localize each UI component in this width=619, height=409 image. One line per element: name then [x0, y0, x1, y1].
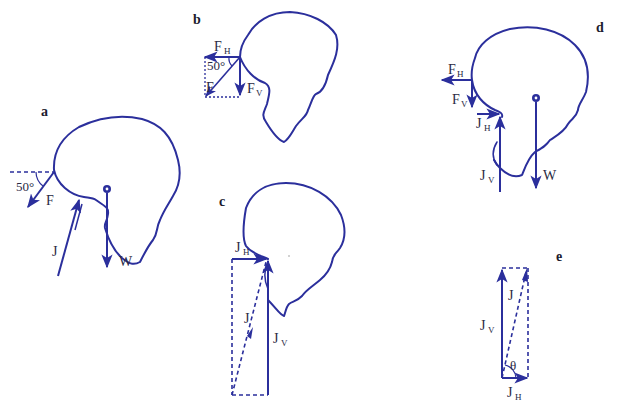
force-FV-subscript-b: V: [256, 88, 263, 98]
panel-a: a 50° F J W: [10, 104, 180, 276]
joint-force-J-line-c: [232, 262, 266, 395]
force-FH-subscript-b: H: [224, 46, 231, 56]
angle-arc-b: [229, 57, 232, 66]
angle-label-a: 50°: [16, 179, 34, 194]
head-outline-b: [240, 12, 337, 142]
panel-c-label: c: [219, 194, 225, 209]
panel-a-label: a: [41, 104, 48, 119]
joint-force-JH-subscript-c: H: [243, 247, 250, 257]
force-FH-label-d: F: [448, 62, 456, 77]
head-outline-d: [472, 27, 588, 176]
joint-force-JH-label-e: J: [507, 385, 513, 400]
head-force-diagram: a 50° F J W b F H F V F: [0, 0, 619, 409]
joint-force-JV-subscript-c: V: [281, 338, 288, 348]
head-outline-a: [54, 117, 180, 264]
joint-force-J-arrow-a: [58, 200, 79, 276]
panel-d: d F H F V J H J V W: [442, 20, 604, 192]
joint-force-J-label-a: J: [52, 244, 58, 259]
force-FV-label-b: F: [247, 81, 255, 96]
panel-c: c J H J V J: [219, 183, 344, 395]
panel-e-label: e: [556, 249, 562, 264]
joint-force-J-label-e: J: [508, 288, 514, 303]
force-F-label-a: F: [46, 193, 54, 208]
joint-force-JH-label-d: J: [476, 116, 482, 131]
angle-label-e: θ: [510, 358, 516, 373]
head-outline-c: [243, 183, 344, 316]
joint-force-JV-label-c: J: [273, 331, 279, 346]
joint-force-J-label-c: J: [244, 311, 250, 326]
joint-force-JV-subscript-e: V: [488, 325, 495, 335]
joint-force-JV-label-e: J: [480, 318, 486, 333]
force-F-label-b: F: [206, 80, 214, 95]
force-FH-subscript-d: H: [457, 69, 464, 79]
joint-force-JV-label-d: J: [480, 168, 486, 183]
joint-force-JH-subscript-d: H: [484, 123, 491, 133]
joint-force-JH-subscript-e: H: [515, 392, 522, 402]
panel-d-label: d: [596, 20, 604, 35]
panel-e: e J V J H J θ: [480, 249, 562, 402]
joint-force-J-arrowhead-e: [522, 268, 528, 282]
joint-force-JV-subscript-d: V: [488, 175, 495, 185]
weight-W-label-a: W: [119, 254, 133, 269]
force-FV-label-d: F: [452, 92, 460, 107]
center-dot-c: [288, 255, 290, 257]
angle-label-b: 50°: [207, 58, 225, 73]
joint-force-JH-label-c: J: [235, 240, 241, 255]
weight-W-label-d: W: [543, 168, 557, 183]
panel-b-label: b: [193, 12, 201, 27]
angle-arc-a: [36, 172, 43, 186]
force-FV-subscript-d: V: [461, 99, 468, 109]
force-FH-label-b: F: [214, 39, 222, 54]
panel-b: b F H F V F 50°: [193, 12, 337, 142]
